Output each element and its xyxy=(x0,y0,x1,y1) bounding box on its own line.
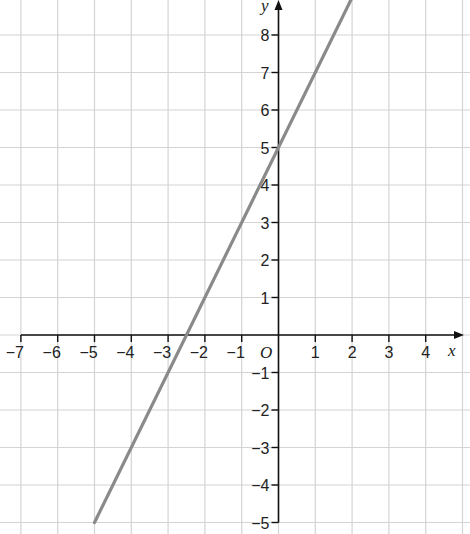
x-tick-label: −7 xyxy=(6,344,24,361)
y-axis-arrow-icon xyxy=(275,0,283,10)
axes xyxy=(21,0,464,523)
x-tick-label: −3 xyxy=(153,344,171,361)
x-tick-label: 1 xyxy=(311,344,320,361)
x-tick-label: 3 xyxy=(384,344,393,361)
x-tick-label: −1 xyxy=(227,344,245,361)
y-axis-label: y xyxy=(259,0,269,15)
coordinate-plot: −7−6−5−4−3−2−11234−5−4−3−2−112345678 x y… xyxy=(0,0,470,534)
y-tick-label: 2 xyxy=(261,252,270,269)
y-tick-label: 1 xyxy=(261,290,270,307)
x-tick-label: −5 xyxy=(79,344,97,361)
y-tick-label: 3 xyxy=(261,215,270,232)
x-tick-label: 2 xyxy=(348,344,357,361)
y-tick-label: −5 xyxy=(251,515,269,532)
x-tick-label: −6 xyxy=(43,344,61,361)
series-line xyxy=(95,0,353,523)
y-tick-label: 8 xyxy=(261,27,270,44)
grid-lines xyxy=(0,0,470,534)
y-tick-label: −1 xyxy=(251,365,269,382)
y-tick-label: 5 xyxy=(261,140,270,157)
y-tick-label: −2 xyxy=(251,402,269,419)
y-tick-label: −3 xyxy=(251,440,269,457)
x-tick-label: −2 xyxy=(190,344,208,361)
tick-labels: −7−6−5−4−3−2−11234−5−4−3−2−112345678 xyxy=(6,27,430,532)
x-axis-label: x xyxy=(447,341,456,360)
y-tick-label: 6 xyxy=(261,102,270,119)
data-line xyxy=(95,0,353,523)
x-tick-label: −4 xyxy=(116,344,134,361)
x-tick-label: 4 xyxy=(421,344,430,361)
y-tick-label: −4 xyxy=(251,477,269,494)
y-tick-label: 7 xyxy=(261,65,270,82)
origin-label: O xyxy=(260,343,272,362)
